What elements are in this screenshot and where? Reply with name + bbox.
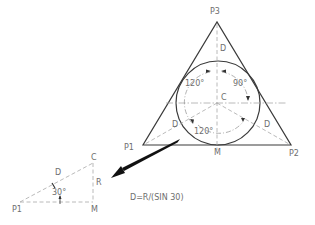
- vertex-label-p2: P2: [289, 149, 299, 158]
- angle-label-upper-right: 90°: [233, 79, 247, 88]
- distance-label-left: D: [172, 120, 178, 129]
- arc-arrowhead: [241, 118, 245, 122]
- vertex-label-p3: P3: [210, 7, 220, 16]
- diagram-canvas: P3 P1 P2 M C D D D 120° 90° 120° D C R 3…: [0, 0, 315, 225]
- center-label-c: C: [221, 93, 227, 102]
- angle-label-bottom: 120°: [194, 127, 213, 136]
- vertex-label-p1: P1: [124, 143, 134, 152]
- detail-hypotenuse-label-d: D: [55, 168, 61, 177]
- midpoint-label-m: M: [214, 148, 221, 157]
- formula-text: D=R/(SIN 30): [130, 193, 184, 202]
- distance-label-right: D: [264, 120, 270, 129]
- detail-vertex-label-m: M: [91, 205, 98, 214]
- angle-label-upper-left: 120°: [185, 79, 204, 88]
- distance-label-top: D: [220, 44, 226, 53]
- detail-angle-label: 30°: [52, 188, 66, 197]
- detail-side-label-r: R: [96, 178, 102, 187]
- detail-vertex-label-c: C: [91, 153, 97, 162]
- arc-arrowhead: [246, 96, 250, 101]
- detail-vertex-label-p1: P1: [12, 205, 22, 214]
